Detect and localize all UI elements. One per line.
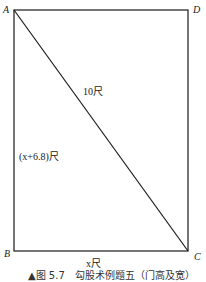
vertex-c-label: C	[194, 252, 201, 262]
vertex-a-label: A	[3, 5, 9, 15]
diagonal-ac	[14, 10, 188, 251]
diagonal-length-label: 10尺	[83, 87, 103, 97]
width-label: x尺	[86, 259, 101, 269]
vertex-b-label: B	[4, 249, 10, 259]
vertex-d-label: D	[193, 5, 200, 15]
figure-caption: ▲图 5.7 勾股术例题五（门高及宽）	[28, 270, 195, 282]
height-label: (x+6.8)尺	[19, 152, 59, 162]
